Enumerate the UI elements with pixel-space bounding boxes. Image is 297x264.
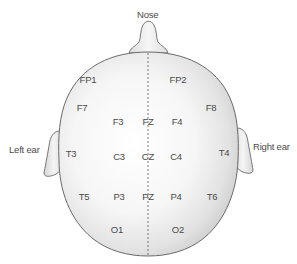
electrode-o1: O1 (111, 225, 123, 235)
nose-label: Nose (137, 10, 158, 20)
electrode-f7: F7 (77, 103, 88, 113)
right-ear-label: Right ear (253, 142, 290, 152)
head-diagram (0, 0, 297, 264)
electrode-f4: F4 (172, 117, 183, 127)
electrode-fp1: FP1 (80, 75, 97, 85)
electrode-t4: T4 (219, 148, 230, 158)
electrode-t5: T5 (79, 192, 90, 202)
right-ear-shape (237, 128, 253, 173)
electrode-t6: T6 (207, 192, 218, 202)
electrode-p4: P4 (170, 192, 181, 202)
electrode-o2: O2 (172, 225, 184, 235)
electrode-f8: F8 (206, 103, 217, 113)
electrode-f3: F3 (113, 117, 124, 127)
electrode-fz: FZ (142, 117, 153, 127)
electrode-c3: C3 (113, 152, 125, 162)
electrode-p3: P3 (113, 192, 124, 202)
electrode-pz: PZ (142, 192, 154, 202)
electrode-fp2: FP2 (170, 75, 187, 85)
electrode-t3: T3 (66, 149, 77, 159)
electrode-cz: CZ (142, 152, 154, 162)
left-ear-label: Left ear (9, 145, 40, 155)
left-ear-shape (44, 131, 60, 176)
electrode-c4: C4 (170, 152, 182, 162)
nose-shape (129, 21, 168, 53)
